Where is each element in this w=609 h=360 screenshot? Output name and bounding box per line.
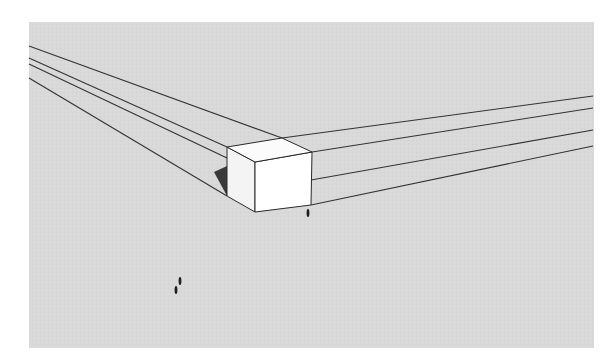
scene-svg[interactable] xyxy=(0,0,609,360)
cube-object[interactable] xyxy=(227,138,312,212)
human-figure-icon[interactable] xyxy=(307,209,310,217)
human-figure-icon[interactable] xyxy=(179,277,182,285)
human-figure-icon[interactable] xyxy=(175,286,178,294)
3d-viewport-canvas[interactable] xyxy=(0,0,609,360)
